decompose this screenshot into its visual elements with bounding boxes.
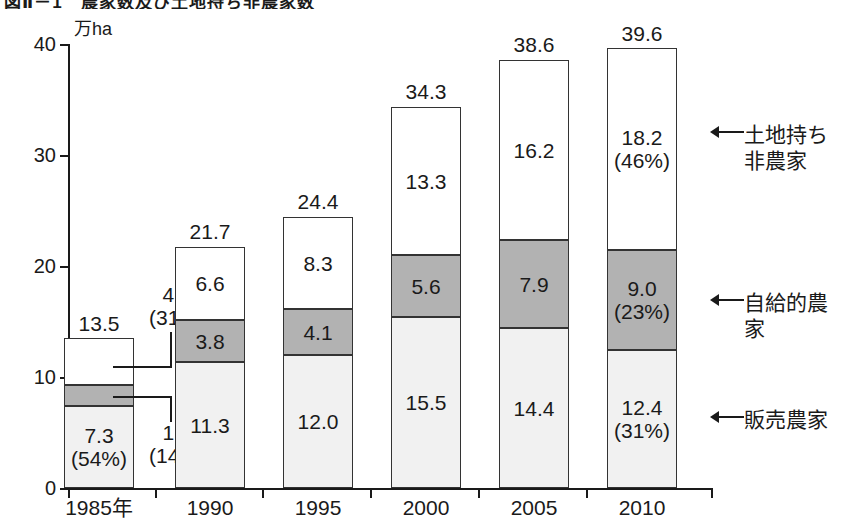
bar-segment-pct-self-sufficient-farm-2010: (23%): [614, 300, 670, 323]
bar-segment-value-landholding-nonfarm-1995: 8.3: [303, 252, 332, 275]
bar-segment-self-sufficient-farm-2010[interactable]: 9.0 (23%): [607, 250, 677, 350]
arrow-left-icon: [710, 122, 744, 142]
bar-segment-value-landholding-nonfarm-2000: 13.3: [406, 170, 447, 193]
legend-label-commercial-farm: 販売農家: [744, 407, 828, 433]
y-tick-40: [60, 44, 68, 46]
bar-segment-commercial-farm-2010[interactable]: 12.4 (31%): [607, 350, 677, 488]
arrow-left-icon: [710, 407, 744, 427]
bar-segment-value-commercial-farm-1990: 11.3: [190, 414, 229, 437]
bar-segment-value-self-sufficient-farm-1995: 4.1: [303, 321, 332, 344]
x-axis-line: [68, 488, 713, 490]
arrow-left-icon: [710, 290, 744, 310]
bar-segment-pct-commercial-farm-2010: (31%): [614, 419, 670, 442]
x-category-label-2010: 2010: [582, 496, 702, 520]
legend-label-self-sufficient-farm: 自給的農家: [744, 290, 844, 342]
callout-leader-vertical-mid-1985: [170, 396, 172, 422]
callout-leader-vertical-top-1985: [170, 332, 172, 368]
bar-segment-value-commercial-farm-1985: 7.3: [84, 424, 113, 447]
bar-segment-landholding-nonfarm-2010[interactable]: 18.2 (46%): [607, 48, 677, 250]
callout-leader-horizontal-top-1985: [113, 366, 172, 368]
x-category-label-2005: 2005: [474, 496, 594, 520]
bar-segment-value-self-sufficient-farm-2005: 7.9: [519, 273, 548, 296]
bar-segment-landholding-nonfarm-1995[interactable]: 8.3: [283, 217, 353, 309]
legend-item-landholding-nonfarm[interactable]: 土地持ち 非農家: [710, 122, 828, 174]
bar-segment-landholding-nonfarm-2000[interactable]: 13.3: [391, 107, 461, 255]
bar-segment-commercial-farm-2000[interactable]: 15.5: [391, 317, 461, 488]
bar-segment-self-sufficient-farm-2005[interactable]: 7.9: [499, 240, 569, 328]
y-tick-20: [60, 266, 68, 268]
bar-segment-value-commercial-farm-2000: 15.5: [406, 391, 447, 414]
bar-segment-value-commercial-farm-2005: 14.4: [514, 397, 555, 420]
bar-segment-value-commercial-farm-1995: 12.0: [298, 410, 339, 433]
legend-label-landholding-nonfarm: 土地持ち 非農家: [744, 122, 828, 174]
y-tick-label-40: 40: [22, 34, 56, 54]
legend-item-self-sufficient-farm[interactable]: 自給的農家: [710, 290, 844, 342]
y-tick-30: [60, 155, 68, 157]
bar-segment-value-landholding-nonfarm-2005: 16.2: [514, 139, 555, 162]
y-tick-label-0: 0: [22, 478, 56, 498]
bar-segment-self-sufficient-farm-1995[interactable]: 4.1: [283, 309, 353, 355]
x-category-label-2000: 2000: [366, 496, 486, 520]
x-category-label-1985: 1985年: [39, 496, 159, 520]
y-tick-label-10: 10: [22, 367, 56, 387]
bar-total-label-2010: 39.6: [582, 23, 702, 45]
x-tick-6: [711, 490, 713, 498]
bar-segment-commercial-farm-1995[interactable]: 12.0: [283, 355, 353, 488]
bar-segment-self-sufficient-farm-1990[interactable]: 3.8: [175, 320, 245, 362]
bar-segment-landholding-nonfarm-1990[interactable]: 6.6: [175, 247, 245, 320]
bar-segment-value-landholding-nonfarm-2010: 18.2: [622, 126, 663, 149]
plot-area: 万ha 40 30 20 10 0 13.5: [0, 0, 844, 526]
bar-segment-commercial-farm-1990[interactable]: 11.3: [175, 362, 245, 488]
x-category-label-1990: 1990: [150, 496, 270, 520]
legend-item-commercial-farm[interactable]: 販売農家: [710, 407, 828, 433]
bar-segment-value-commercial-farm-2010: 12.4: [622, 396, 663, 419]
x-category-label-1995: 1995: [258, 496, 378, 520]
y-axis-unit-label: 万ha: [74, 20, 112, 38]
bar-segment-pct-landholding-nonfarm-2010: (46%): [614, 149, 670, 172]
bar-segment-value-self-sufficient-farm-2000: 5.6: [411, 275, 440, 298]
bar-total-label-1995: 24.4: [258, 191, 378, 213]
bar-segment-value-landholding-nonfarm-1990: 6.6: [195, 272, 224, 295]
bar-segment-self-sufficient-farm-2000[interactable]: 5.6: [391, 255, 461, 317]
bar-segment-value-self-sufficient-farm-2010: 9.0: [627, 277, 656, 300]
bar-segment-commercial-farm-2005[interactable]: 14.4: [499, 328, 569, 488]
y-tick-label-20: 20: [22, 256, 56, 276]
bar-total-label-2000: 34.3: [366, 81, 486, 103]
y-tick-label-30: 30: [22, 145, 56, 165]
bar-segment-landholding-nonfarm-1985[interactable]: [64, 338, 134, 385]
chart-page: 図Ⅱ－1 農家数及び土地持ち非農家数 万ha 40 30 20 10 0: [0, 0, 844, 526]
bar-segment-value-self-sufficient-farm-1990: 3.8: [195, 330, 224, 353]
callout-leader-horizontal-mid-1985: [113, 396, 172, 398]
y-tick-0: [60, 488, 68, 490]
bar-total-label-2005: 38.6: [474, 34, 594, 56]
bar-segment-landholding-nonfarm-2005[interactable]: 16.2: [499, 60, 569, 240]
bar-total-label-1990: 21.7: [150, 221, 270, 243]
